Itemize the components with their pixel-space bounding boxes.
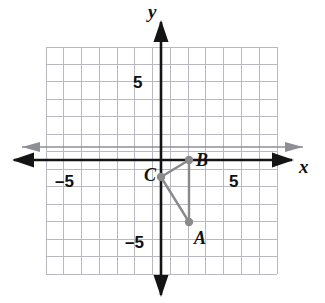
point-a: [185, 218, 193, 226]
y-axis-label: y: [148, 2, 156, 21]
point-label-a: A: [194, 229, 206, 247]
point-b: [185, 156, 193, 164]
tick-label-x-negative-5: –5: [55, 173, 74, 190]
tick-label-y-negative-5: –5: [125, 234, 144, 251]
point-c: [157, 173, 165, 181]
y-axis: [154, 20, 169, 297]
coordinate-plane-figure: y x 5 –5 –5 5 A B C: [0, 0, 325, 303]
segment-c-b: [161, 160, 189, 177]
x-axis-label: x: [299, 157, 309, 176]
segment-c-a: [161, 177, 189, 222]
point-label-b: B: [196, 151, 208, 169]
tick-label-x-positive-5: 5: [229, 173, 238, 190]
tick-label-y-positive-5: 5: [133, 74, 142, 91]
coordinate-plane-canvas: [0, 0, 325, 303]
point-label-c: C: [144, 166, 156, 184]
